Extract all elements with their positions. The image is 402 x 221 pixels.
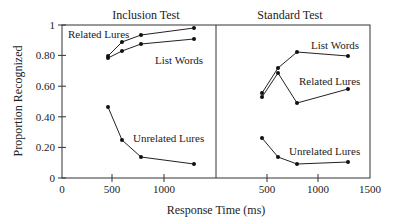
- chart: 1 0.80 0.60 0.40 0.20 0 0 500 1000 500 1…: [0, 0, 402, 221]
- label-left-list-words: List Words: [155, 54, 203, 66]
- y-axis-labels: 1 0.80 0.60 0.40 0.20 0: [36, 19, 56, 184]
- svg-text:0.40: 0.40: [36, 111, 56, 123]
- svg-text:0.60: 0.60: [36, 80, 56, 92]
- label-left-unrelated-lures: Unrelated Lures: [133, 132, 204, 144]
- svg-text:1500: 1500: [359, 183, 382, 195]
- label-right-list-words: List Words: [311, 39, 359, 51]
- svg-text:0: 0: [50, 172, 56, 184]
- svg-text:0.20: 0.20: [36, 141, 56, 153]
- right-panel-title: Standard Test: [257, 8, 323, 22]
- svg-text:1: 1: [50, 19, 56, 31]
- svg-text:500: 500: [259, 183, 276, 195]
- label-right-related-lures: Related Lures: [299, 75, 360, 87]
- y-axis-title: Proportion Recognized: [11, 46, 25, 157]
- svg-text:1000: 1000: [153, 183, 176, 195]
- x-axis-labels: 0 500 1000 500 1000 1500: [59, 183, 381, 195]
- label-left-related-lures: Related Lures: [68, 28, 129, 40]
- label-right-unrelated-lures: Unrelated Lures: [289, 145, 360, 157]
- svg-text:500: 500: [104, 183, 121, 195]
- svg-text:0: 0: [59, 183, 65, 195]
- svg-text:0.80: 0.80: [36, 49, 56, 61]
- svg-text:1000: 1000: [307, 183, 330, 195]
- x-axis-title: Response Time (ms): [167, 203, 266, 217]
- left-panel-title: Inclusion Test: [112, 8, 180, 22]
- series-labels: Related Lures List Words Unrelated Lures…: [68, 28, 360, 157]
